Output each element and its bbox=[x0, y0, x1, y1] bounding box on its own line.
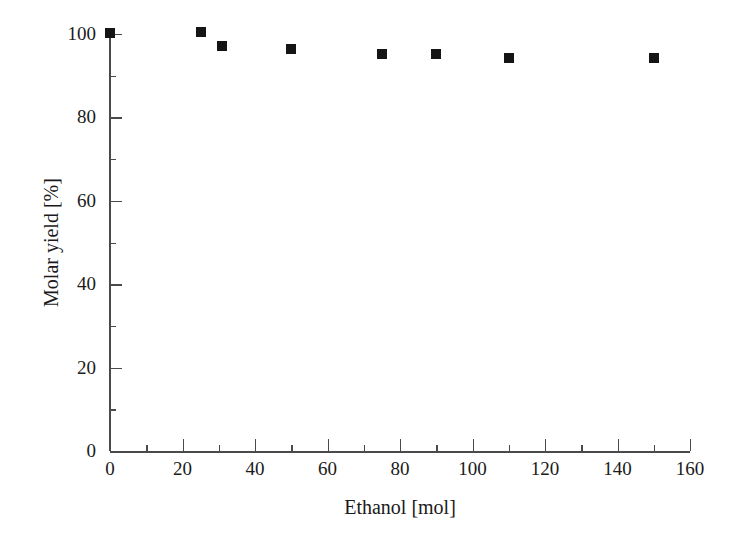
x-tick-major bbox=[618, 439, 619, 451]
y-tick-label: 80 bbox=[77, 106, 96, 128]
x-tick-major bbox=[473, 439, 474, 451]
x-axis-label: Ethanol [mol] bbox=[110, 496, 690, 519]
y-tick-minor bbox=[110, 409, 116, 410]
x-tick-minor bbox=[291, 445, 292, 451]
chart-figure: 020406080100120140160 020406080100 Ethan… bbox=[0, 0, 732, 548]
data-point bbox=[286, 44, 296, 54]
data-point bbox=[431, 49, 441, 59]
y-tick-major bbox=[110, 368, 122, 369]
y-tick-major bbox=[110, 201, 122, 202]
x-tick-minor bbox=[364, 445, 365, 451]
x-tick-major bbox=[110, 439, 111, 451]
y-tick-minor bbox=[110, 159, 116, 160]
y-tick-minor bbox=[110, 243, 116, 244]
y-tick-minor bbox=[110, 76, 116, 77]
x-tick-minor bbox=[146, 445, 147, 451]
y-tick-minor bbox=[110, 326, 116, 327]
data-point bbox=[504, 53, 514, 63]
data-point bbox=[105, 28, 115, 38]
x-tick-label: 140 bbox=[603, 458, 632, 480]
y-tick-major bbox=[110, 117, 122, 118]
x-tick-label: 100 bbox=[458, 458, 487, 480]
x-tick-major bbox=[328, 439, 329, 451]
data-point bbox=[649, 53, 659, 63]
x-tick-minor bbox=[436, 445, 437, 451]
x-tick-label: 120 bbox=[531, 458, 560, 480]
data-point bbox=[196, 27, 206, 37]
y-axis-label: Molar yield [%] bbox=[34, 34, 68, 451]
x-tick-label: 80 bbox=[391, 458, 410, 480]
x-tick-label: 160 bbox=[676, 458, 705, 480]
x-tick-label: 60 bbox=[318, 458, 337, 480]
x-tick-major bbox=[183, 439, 184, 451]
y-tick-label: 60 bbox=[77, 190, 96, 212]
data-point bbox=[217, 41, 227, 51]
y-tick-label: 100 bbox=[68, 23, 97, 45]
x-tick-minor bbox=[219, 445, 220, 451]
plot-area: 020406080100120140160 020406080100 bbox=[110, 34, 690, 451]
x-tick-minor bbox=[509, 445, 510, 451]
x-tick-label: 40 bbox=[246, 458, 265, 480]
x-tick-major bbox=[400, 439, 401, 451]
x-tick-minor bbox=[654, 445, 655, 451]
data-point bbox=[377, 49, 387, 59]
x-tick-major bbox=[255, 439, 256, 451]
y-tick-major bbox=[110, 284, 122, 285]
x-tick-major bbox=[690, 439, 691, 451]
y-tick-major bbox=[110, 451, 122, 452]
x-tick-label: 20 bbox=[173, 458, 192, 480]
y-tick-label: 0 bbox=[87, 440, 97, 462]
y-tick-label: 20 bbox=[77, 357, 96, 379]
x-axis-line bbox=[110, 451, 690, 453]
y-tick-label: 40 bbox=[77, 273, 96, 295]
x-tick-major bbox=[545, 439, 546, 451]
x-tick-label: 0 bbox=[105, 458, 115, 480]
x-tick-minor bbox=[581, 445, 582, 451]
